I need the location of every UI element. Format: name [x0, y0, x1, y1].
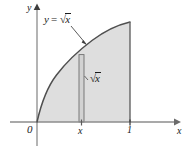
radical-expression-strip: √x [89, 72, 101, 84]
y-axis-arrowhead [34, 4, 41, 11]
math-figure: y=√x √x 0 x 1 x y [0, 0, 190, 153]
curve-equation-label: y=√x [44, 13, 71, 25]
radicand: x [65, 13, 71, 25]
x-tick-label-variable: x [78, 126, 82, 136]
radical-expression: √x [59, 13, 71, 25]
equation-operator: = [49, 13, 59, 25]
y-axis-label: y [27, 3, 31, 13]
representative-strip [79, 55, 84, 122]
origin-label: 0 [27, 124, 33, 135]
leader-line-arrowhead [82, 40, 87, 45]
x-axis-label: x [177, 126, 181, 136]
strip-height-label: √x [89, 72, 101, 84]
x-tick-label-one: 1 [127, 125, 132, 135]
radicand: x [95, 72, 101, 84]
